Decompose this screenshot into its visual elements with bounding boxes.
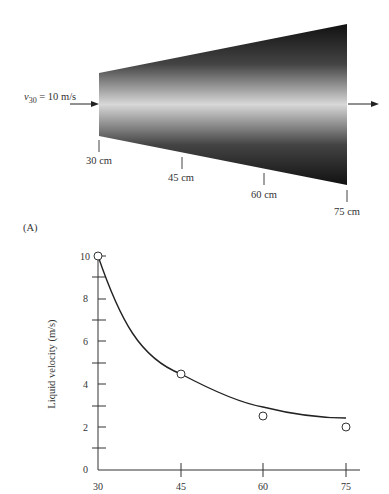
- chart: 10 8 6 4 2 0 30 45 60 75 Liquid velocity…: [46, 251, 360, 492]
- svg-text:10: 10: [80, 251, 90, 262]
- svg-text:0: 0: [83, 464, 88, 475]
- outlet-arrow-icon: [348, 101, 379, 107]
- position-label-60: 60 cm: [251, 189, 277, 200]
- svg-text:45: 45: [176, 481, 186, 492]
- data-point: [177, 370, 185, 378]
- svg-text:8: 8: [83, 293, 88, 304]
- figure: v30 = 10 m/s 30 cm 45 cm 60 cm 75 cm (A): [0, 0, 389, 494]
- data-points: [94, 252, 350, 431]
- svg-text:60: 60: [258, 481, 268, 492]
- svg-text:30: 30: [93, 481, 103, 492]
- velocity-curve: [98, 256, 346, 418]
- position-label-75: 75 cm: [334, 206, 360, 217]
- x-tick-labels: 30 45 60 75: [93, 481, 351, 492]
- svg-text:75: 75: [341, 481, 351, 492]
- y-axis-label: Liquid velocity (m/s): [46, 319, 58, 409]
- data-point: [342, 423, 350, 431]
- data-point: [94, 252, 102, 260]
- position-label-30: 30 cm: [86, 155, 112, 166]
- y-ticks: [92, 256, 106, 448]
- diverging-pipe: [99, 24, 347, 185]
- position-label-45: 45 cm: [168, 172, 194, 183]
- inlet-velocity-label: v30 = 10 m/s: [24, 91, 76, 105]
- y-tick-labels: 10 8 6 4 2 0: [80, 251, 90, 475]
- panel-label: (A): [23, 222, 38, 234]
- data-point: [259, 412, 267, 420]
- svg-text:6: 6: [83, 336, 88, 347]
- svg-text:2: 2: [83, 422, 88, 433]
- svg-text:4: 4: [83, 379, 88, 390]
